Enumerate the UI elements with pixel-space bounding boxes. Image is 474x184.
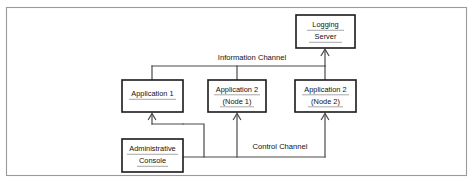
node-administrative-console[interactable]: Administrative Console (122, 139, 183, 172)
node-application-2-node-1-label-line2: (Node 1) (223, 97, 252, 106)
node-application-2-node-2-label-line1: Application 2 (304, 85, 346, 94)
node-logging-server-label-line2: Server (315, 32, 337, 41)
node-logging-server[interactable]: Logging Server (296, 15, 355, 48)
node-application-1[interactable]: Application 1 (122, 80, 183, 112)
node-application-2-node-2[interactable]: Application 2 (Node 2) (295, 80, 356, 112)
node-application-1-label-line1: Application 1 (131, 89, 173, 98)
node-application-2-node-1-label-line1: Application 2 (216, 85, 258, 94)
node-application-2-node-2-label-line2: (Node 2) (311, 97, 340, 106)
node-administrative-console-label-line1: Administrative (129, 144, 175, 153)
diagram-canvas: Logging Server Application 1 Application… (0, 0, 474, 184)
diagram-svg: Logging Server Application 1 Application… (0, 0, 474, 184)
information-channel-label: Information Channel (218, 53, 287, 62)
control-channel-label: Control Channel (253, 142, 308, 151)
control-branch-application-1-elbow (183, 124, 204, 157)
node-administrative-console-label-line2: Console (139, 156, 166, 165)
information-channel-label-group: Information Channel (215, 52, 289, 63)
node-application-2-node-1[interactable]: Application 2 (Node 1) (208, 80, 266, 112)
control-channel-label-group: Control Channel (250, 141, 310, 152)
node-logging-server-label-line1: Logging (312, 20, 338, 29)
